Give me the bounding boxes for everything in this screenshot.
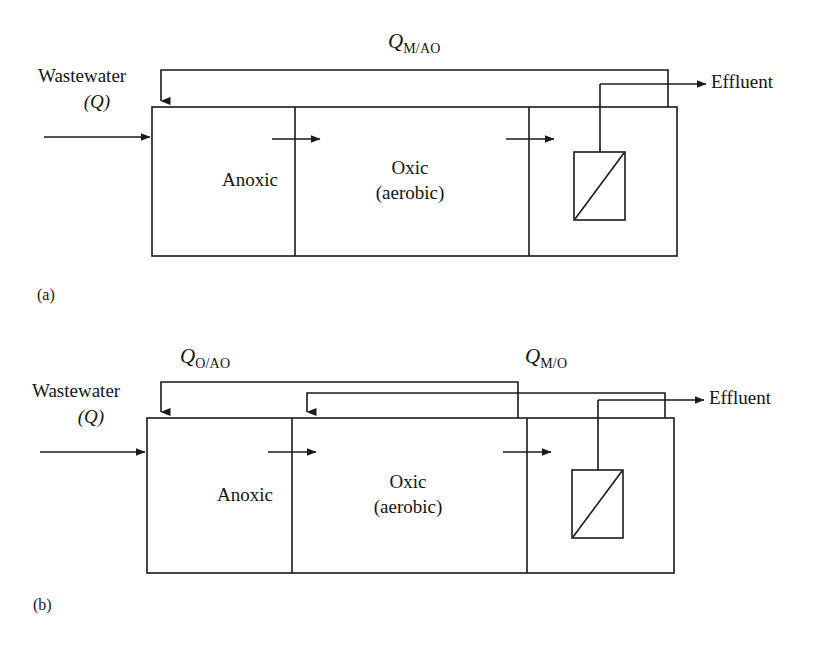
effluent-label-b: Effluent	[709, 388, 771, 409]
recycle-label-qmo: QM/O	[525, 345, 567, 368]
membrane-diagonal-b	[573, 471, 622, 537]
zone-label-oxic-a: Oxic	[345, 158, 475, 179]
zone-label-aerobic-b: (aerobic)	[343, 497, 473, 518]
influent-label-b: Wastewater	[32, 381, 120, 402]
influent-flow-symbol-a: (Q)	[38, 92, 156, 113]
panel-caption-a: (a)	[37, 286, 55, 303]
recycle-line-qmo-b	[307, 393, 665, 418]
zone-label-anoxic-a: Anoxic	[195, 170, 305, 191]
panel-caption-b: (b)	[33, 596, 52, 613]
effluent-label-a: Effluent	[711, 72, 773, 93]
zone-label-anoxic-b: Anoxic	[190, 485, 300, 506]
influent-flow-symbol-b: (Q)	[32, 407, 150, 428]
zone-label-oxic-b: Oxic	[343, 472, 473, 493]
recycle-label-qoao: QO/AO	[180, 345, 230, 368]
recycle-line-qmao-a	[161, 70, 668, 107]
recycle-line-qoao-b	[161, 382, 518, 418]
recycle-label-qmao: QM/AO	[388, 30, 441, 53]
influent-label-a: Wastewater	[38, 66, 126, 87]
membrane-diagonal-a	[575, 153, 624, 219]
zone-label-aerobic-a: (aerobic)	[345, 183, 475, 204]
figure-container: QM/AO Wastewater (Q) Effluent Anoxic Oxi…	[0, 0, 822, 646]
